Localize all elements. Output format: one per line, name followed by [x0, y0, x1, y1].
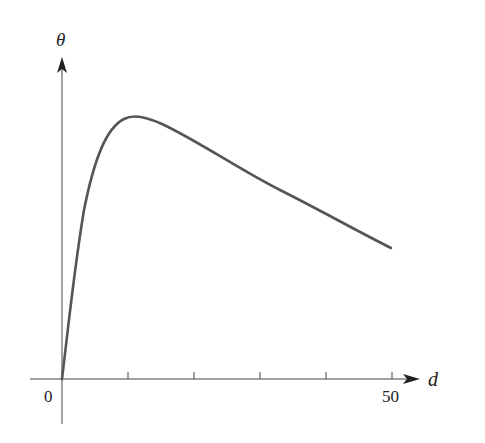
origin-label: 0 — [44, 387, 53, 406]
chart: θ d 0 50 — [0, 0, 485, 443]
x-axis-label: d — [428, 368, 439, 390]
theta-curve — [62, 117, 391, 379]
x-tick-label-50: 50 — [382, 387, 399, 406]
x-axis-ticks — [128, 372, 392, 379]
y-axis-label: θ — [56, 29, 65, 50]
